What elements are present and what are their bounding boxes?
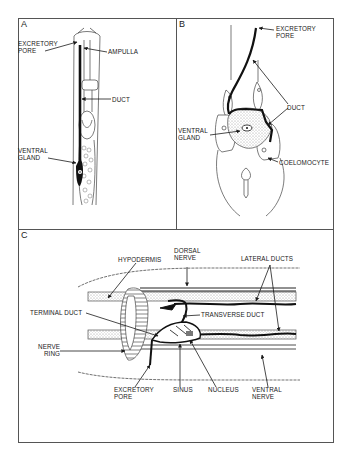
label-c-hypodermis: HYPODERMIS <box>118 256 161 263</box>
label-c-dorsal-nerve: DORSAL NERVE <box>174 247 201 261</box>
label-c-terminal-duct: TERMINAL DUCT <box>30 309 82 316</box>
label-a-ampulla: AMPULLA <box>108 48 138 55</box>
label-b-coelomocyte: COELOMOCYTE <box>279 159 329 166</box>
label-b-ventral-gland: VENTRAL GLAND <box>178 127 208 141</box>
label-c-transverse-duct: TRANSVERSE DUCT <box>201 311 264 318</box>
label-c-lateral-ducts: LATERAL DUCTS <box>241 255 293 262</box>
excretory-system-figure: A B C <box>0 0 352 461</box>
label-c-nucleus: NUCLEUS <box>208 386 239 393</box>
label-b-excretory-pore: EXCRETORY PORE <box>276 25 316 39</box>
label-c-sinus: SINUS <box>173 386 193 393</box>
label-a-duct: DUCT <box>112 96 130 103</box>
label-a-excretory-pore: EXCRETORY PORE <box>18 40 58 54</box>
label-c-ventral-nerve: VENTRAL NERVE <box>252 386 282 400</box>
label-c-excretory-pore: EXCRETORY PORE <box>114 386 154 400</box>
label-b-duct: DUCT <box>287 104 305 111</box>
label-c-nerve-ring: NERVE RING <box>38 343 60 357</box>
label-a-ventral-gland: VENTRAL GLAND <box>18 147 48 161</box>
